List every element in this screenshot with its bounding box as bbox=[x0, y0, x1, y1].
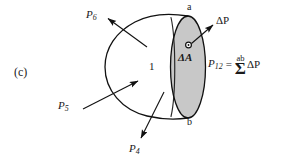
vector-label-p5-base: P bbox=[58, 99, 65, 111]
panel-label: (c) bbox=[14, 66, 27, 78]
vector-label-p6-subscript: 6 bbox=[93, 13, 97, 22]
pressure-area-diagram: (c) 1 a b ΔA P6 P5 P4 ΔP P12 = ab Σ ΔP bbox=[0, 0, 283, 164]
vector-label-p6-base: P bbox=[86, 8, 93, 20]
vector-label-delta-p-base: ΔP bbox=[216, 14, 229, 26]
vector-label-p5: P5 bbox=[58, 100, 69, 113]
endpoint-label-a: a bbox=[187, 2, 191, 12]
equation-equals-sign: = bbox=[226, 59, 232, 70]
diagram-canvas bbox=[0, 0, 283, 164]
vector-label-p6: P6 bbox=[86, 9, 97, 22]
area-element-point-dot bbox=[188, 44, 190, 46]
vector-label-p4: P4 bbox=[129, 143, 140, 156]
equation-lhs-base: P bbox=[208, 57, 215, 69]
equation-sum-sigma: Σ bbox=[235, 62, 246, 76]
vector-label-p4-base: P bbox=[129, 142, 136, 154]
vector-label-p4-subscript: 4 bbox=[136, 147, 140, 156]
vector-label-delta-p: ΔP bbox=[216, 15, 229, 26]
equation-lhs: P12 bbox=[208, 58, 223, 71]
endpoint-label-b: b bbox=[187, 117, 192, 127]
vector-label-p5-subscript: 5 bbox=[65, 104, 69, 113]
region-label-1: 1 bbox=[149, 61, 155, 72]
equation-summation: ab Σ bbox=[235, 54, 246, 76]
system-body-outline bbox=[105, 14, 188, 119]
summation-equation: P12 = ab Σ ΔP bbox=[208, 54, 260, 76]
area-element-label: ΔA bbox=[178, 52, 192, 63]
equation-rhs: ΔP bbox=[247, 59, 260, 70]
equation-lhs-subscript: 12 bbox=[215, 63, 223, 72]
